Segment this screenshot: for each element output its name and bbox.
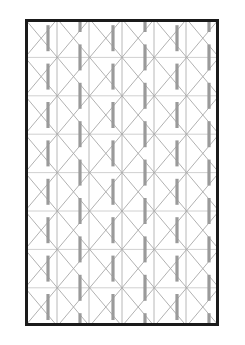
figure-root xyxy=(0,0,245,345)
lattice-pattern-svg xyxy=(0,0,245,345)
